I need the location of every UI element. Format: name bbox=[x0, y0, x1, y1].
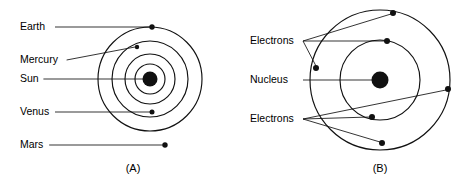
caption-panel-a: (A) bbox=[126, 162, 141, 174]
label-venus: Venus bbox=[20, 105, 49, 117]
panel-b-atom: Electrons Nucleus Electrons (B) bbox=[250, 10, 451, 174]
label-earth: Earth bbox=[20, 20, 45, 32]
panel-a-leader-lines bbox=[43, 27, 163, 145]
panel-a-solar-system: Earth Mercury Sun Venus Mars (A) bbox=[20, 20, 202, 174]
label-nucleus: Nucleus bbox=[250, 73, 288, 85]
label-sun: Sun bbox=[20, 72, 39, 84]
body-dot-venus-2 bbox=[150, 110, 155, 115]
diagram-canvas: Earth Mercury Sun Venus Mars (A) Electro… bbox=[0, 0, 466, 181]
body-dot-electron-5 bbox=[379, 140, 385, 146]
leader-branch-0-2 bbox=[303, 41, 316, 66]
label-mars: Mars bbox=[20, 138, 43, 150]
body-dot-electron-1 bbox=[384, 38, 390, 44]
body-dot-mercury-1 bbox=[135, 45, 139, 49]
label-electrons-top: Electrons bbox=[250, 34, 294, 46]
label-electrons-bottom: Electrons bbox=[250, 112, 294, 124]
body-dot-electron-3 bbox=[445, 86, 451, 92]
sun-body bbox=[143, 72, 158, 87]
body-dot-electron-0 bbox=[390, 10, 396, 16]
caption-panel-b: (B) bbox=[373, 162, 388, 174]
leader-line-mercury bbox=[67, 47, 135, 60]
nucleus-body bbox=[372, 72, 389, 89]
body-dot-earth-0 bbox=[149, 24, 154, 29]
figure-root: Earth Mercury Sun Venus Mars (A) Electro… bbox=[0, 0, 466, 181]
body-dot-electron-4 bbox=[369, 114, 375, 120]
body-dot-electron-2 bbox=[313, 65, 319, 71]
body-dot-mars-3 bbox=[162, 142, 167, 147]
leader-branch-2-0 bbox=[303, 90, 446, 119]
label-mercury: Mercury bbox=[20, 53, 59, 65]
